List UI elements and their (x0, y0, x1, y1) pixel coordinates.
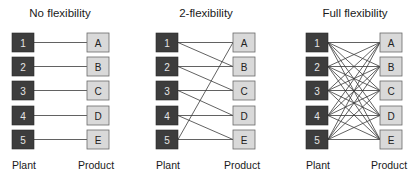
plant-label: 2 (164, 62, 170, 73)
product-label: A (388, 38, 395, 49)
plant-node: 4 (12, 106, 34, 125)
product-label: E (388, 135, 395, 146)
product-node: A (233, 33, 255, 52)
product-label: C (387, 86, 394, 97)
plant-label: 5 (20, 135, 26, 146)
plant-label: 4 (314, 111, 320, 122)
plant-node: 4 (156, 106, 178, 125)
plant-label: 4 (20, 111, 26, 122)
plant-node: 2 (306, 57, 328, 76)
product-node: B (233, 57, 255, 76)
panel-0: No flexibility12345ABCDEPlantProduct (12, 7, 114, 171)
link-line (178, 43, 233, 140)
plant-node: 3 (12, 81, 34, 100)
product-node: D (87, 106, 109, 125)
product-label: A (95, 38, 102, 49)
plant-node: 5 (306, 130, 328, 149)
plant-label: 4 (164, 111, 170, 122)
product-node: A (380, 33, 402, 52)
product-node: E (233, 130, 255, 149)
product-node: E (87, 130, 109, 149)
links (328, 43, 380, 140)
plant-column-label: Plant (306, 159, 330, 171)
product-label: C (94, 86, 101, 97)
panel-title: Full flexibility (322, 7, 387, 19)
panel-2: Full flexibility12345ABCDEPlantProduct (306, 7, 407, 171)
product-label: E (95, 135, 102, 146)
panel-title: No flexibility (29, 7, 91, 19)
product-node: D (233, 106, 255, 125)
plant-column-label: Plant (12, 159, 36, 171)
product-label: B (388, 62, 395, 73)
plant-node: 2 (12, 57, 34, 76)
plant-node: 1 (156, 33, 178, 52)
plant-node: 5 (12, 130, 34, 149)
links (34, 43, 87, 140)
plant-node: 3 (156, 81, 178, 100)
plant-label: 2 (314, 62, 320, 73)
plant-node: 5 (156, 130, 178, 149)
plant-label: 5 (164, 135, 170, 146)
product-node: A (87, 33, 109, 52)
product-node: C (380, 81, 402, 100)
product-label: B (241, 62, 248, 73)
product-column-label: Product (224, 159, 260, 171)
plant-label: 1 (20, 38, 26, 49)
link-line (178, 91, 233, 116)
plant-node: 1 (12, 33, 34, 52)
plant-node: 1 (306, 33, 328, 52)
product-node: B (87, 57, 109, 76)
plant-label: 3 (164, 86, 170, 97)
product-column-label: Product (78, 159, 114, 171)
product-column-label: Product (371, 159, 407, 171)
plant-label: 1 (314, 38, 320, 49)
product-label: D (387, 111, 394, 122)
product-label: D (240, 111, 247, 122)
links (178, 43, 233, 140)
plant-label: 3 (20, 86, 26, 97)
plant-node: 4 (306, 106, 328, 125)
panel-1: 2-flexibility12345ABCDEPlantProduct (156, 7, 260, 171)
product-label: C (240, 86, 247, 97)
product-node: C (87, 81, 109, 100)
link-line (178, 67, 233, 91)
product-node: B (380, 57, 402, 76)
plant-node: 3 (306, 81, 328, 100)
product-label: A (241, 38, 248, 49)
product-label: D (94, 111, 101, 122)
plant-label: 1 (164, 38, 170, 49)
product-node: E (380, 130, 402, 149)
product-label: B (95, 62, 102, 73)
plant-column-label: Plant (156, 159, 180, 171)
plant-node: 2 (156, 57, 178, 76)
link-line (178, 116, 233, 140)
link-line (178, 43, 233, 67)
panel-title: 2-flexibility (179, 7, 233, 19)
product-label: E (241, 135, 248, 146)
flexibility-diagram: No flexibility12345ABCDEPlantProduct2-fl… (0, 0, 419, 180)
plant-label: 2 (20, 62, 26, 73)
plant-label: 5 (314, 135, 320, 146)
plant-label: 3 (314, 86, 320, 97)
product-node: C (233, 81, 255, 100)
product-node: D (380, 106, 402, 125)
